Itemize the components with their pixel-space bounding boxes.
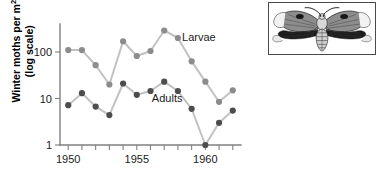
data-point-adults: [106, 112, 112, 118]
data-point-larvae: [175, 35, 181, 41]
winter-moth-icon: [269, 3, 375, 54]
x-axis-ticks: 195019551960: [56, 145, 233, 165]
adults-series-label: Adults: [152, 92, 183, 104]
data-point-adults: [230, 107, 236, 113]
data-point-larvae: [147, 48, 153, 54]
data-point-adults: [93, 103, 99, 109]
data-point-larvae: [106, 81, 112, 87]
figure-winter-moth-population: Winter moths per m2 (log scale) 110100 1…: [0, 0, 382, 178]
y-tick-label: 100: [34, 46, 52, 58]
data-point-larvae: [161, 27, 167, 33]
data-point-larvae: [134, 53, 140, 59]
data-point-adults: [79, 90, 85, 96]
data-point-larvae: [216, 99, 222, 105]
x-tick-label: 1960: [193, 153, 217, 165]
data-point-adults: [189, 106, 195, 112]
y-tick-label: 10: [40, 93, 52, 105]
data-point-larvae: [65, 47, 71, 53]
data-point-larvae: [93, 62, 99, 68]
data-point-adults: [120, 80, 126, 86]
y-axis-ticks: 110100: [34, 46, 60, 151]
data-point-larvae: [120, 38, 126, 44]
series-lines: [68, 31, 233, 146]
data-point-adults: [134, 92, 140, 98]
x-tick-label: 1955: [125, 153, 149, 165]
larvae-series-label: Larvae: [182, 31, 216, 43]
data-point-larvae: [79, 47, 85, 53]
y-tick-label: 1: [46, 139, 52, 151]
x-tick-label: 1950: [56, 153, 80, 165]
data-point-adults: [216, 120, 222, 126]
series-annotations: LarvaeAdults: [152, 31, 216, 104]
data-point-adults: [161, 79, 167, 85]
data-point-larvae: [189, 58, 195, 64]
data-point-adults: [202, 142, 208, 148]
data-point-larvae: [202, 79, 208, 85]
data-point-larvae: [230, 87, 236, 93]
winter-moth-illustration-box: [268, 2, 376, 55]
data-point-adults: [65, 102, 71, 108]
